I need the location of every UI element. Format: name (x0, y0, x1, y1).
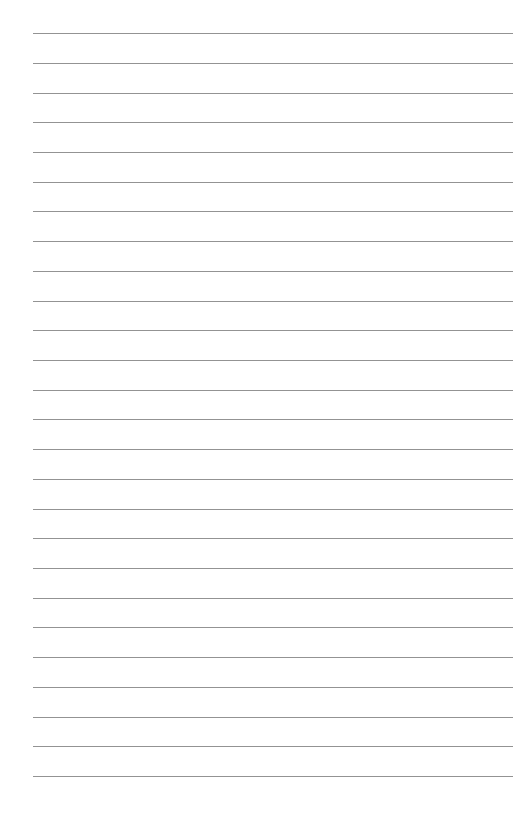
rule-line (33, 211, 513, 212)
rule-line (33, 63, 513, 64)
rule-line (33, 568, 513, 569)
rule-line (33, 360, 513, 361)
rule-line (33, 657, 513, 658)
rule-line (33, 479, 513, 480)
rule-line (33, 419, 513, 420)
rule-line (33, 271, 513, 272)
rule-line (33, 241, 513, 242)
rule-line (33, 538, 513, 539)
rule-line (33, 449, 513, 450)
rule-line (33, 330, 513, 331)
rule-line (33, 33, 513, 34)
rule-line (33, 598, 513, 599)
rule-line (33, 301, 513, 302)
writing-area[interactable] (0, 0, 529, 816)
rule-line (33, 627, 513, 628)
rule-line (33, 390, 513, 391)
lined-paper-page: Blank Lined Paper (0, 0, 529, 816)
rule-line (33, 776, 513, 777)
rule-line (33, 182, 513, 183)
rule-line (33, 122, 513, 123)
rule-line (33, 717, 513, 718)
rule-line (33, 509, 513, 510)
rule-line (33, 687, 513, 688)
rule-line (33, 152, 513, 153)
rule-line (33, 93, 513, 94)
rule-line (33, 746, 513, 747)
